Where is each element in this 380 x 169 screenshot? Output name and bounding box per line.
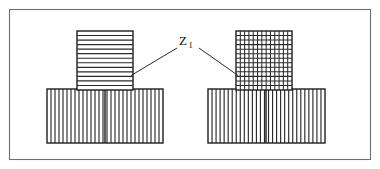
left-base-block [47, 89, 163, 143]
callout-label-subscript: 1 [189, 40, 193, 50]
right-base-block [208, 89, 325, 143]
figure-container: Z 1 [0, 0, 380, 169]
right-upper-block [236, 31, 292, 90]
technical-diagram: Z 1 [0, 0, 380, 169]
left-upper-block [77, 31, 133, 90]
callout-label-z: Z [179, 33, 187, 48]
